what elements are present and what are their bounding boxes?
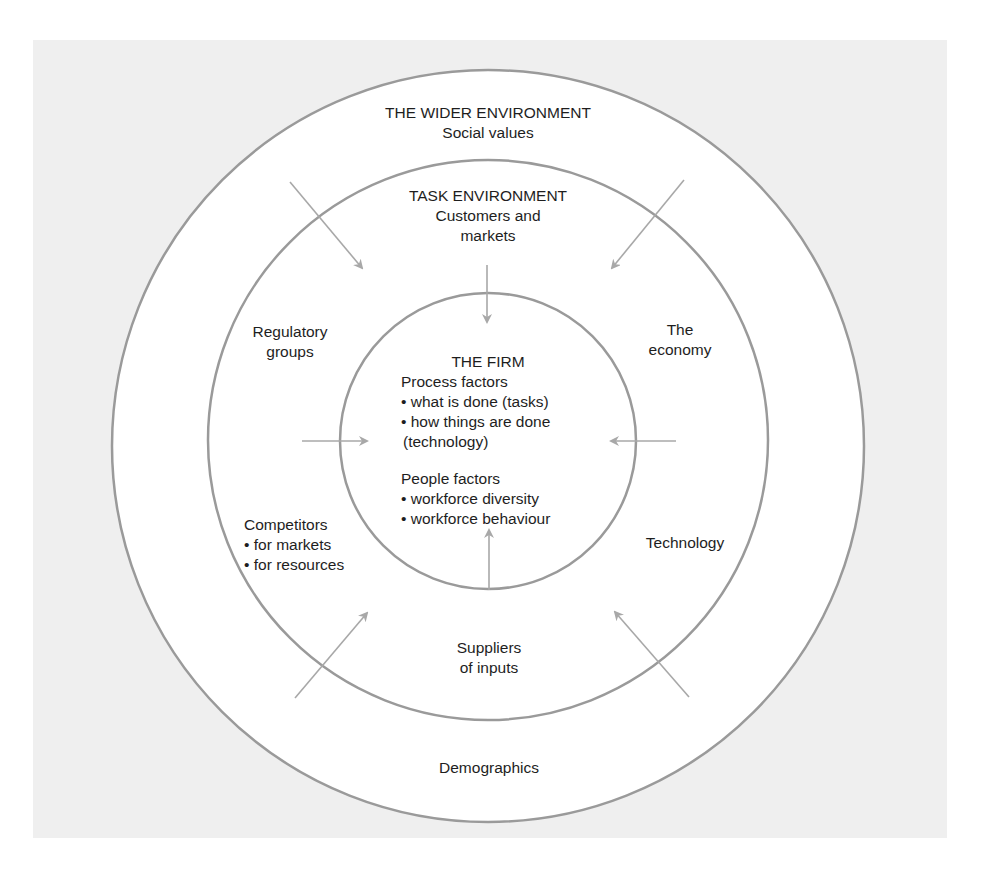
task-environment-subtitle-2: markets (338, 226, 638, 246)
competitors-title: Competitors (244, 515, 344, 535)
process-factors-heading: Process factors (401, 372, 550, 392)
task-environment-title: TASK ENVIRONMENT (338, 186, 638, 206)
firm-people-factors: People factors • workforce diversity • w… (401, 469, 550, 529)
process-factor-2-cont: (technology) (401, 432, 550, 452)
economy-label: The economy (620, 320, 740, 360)
suppliers-line-2: of inputs (419, 658, 559, 678)
competitors-label: Competitors • for markets • for resource… (244, 515, 344, 575)
wider-environment-label: THE WIDER ENVIRONMENT Social values (338, 103, 638, 143)
competitors-bullet-2: • for resources (244, 555, 344, 575)
regulatory-line-1: Regulatory (220, 322, 360, 342)
firm-title: THE FIRM (388, 352, 588, 372)
process-factor-1: • what is done (tasks) (401, 392, 550, 412)
task-environment-label: TASK ENVIRONMENT Customers and markets (338, 186, 638, 246)
wider-environment-title: THE WIDER ENVIRONMENT (338, 103, 638, 123)
people-factor-1: • workforce diversity (401, 489, 550, 509)
task-environment-subtitle-1: Customers and (338, 206, 638, 226)
suppliers-line-1: Suppliers (419, 638, 559, 658)
regulatory-line-2: groups (220, 342, 360, 362)
wider-environment-subtitle: Social values (338, 123, 638, 143)
people-factor-2: • workforce behaviour (401, 509, 550, 529)
economy-line-2: economy (620, 340, 740, 360)
technology-label: Technology (620, 533, 750, 553)
regulatory-groups-label: Regulatory groups (220, 322, 360, 362)
people-factors-heading: People factors (401, 469, 550, 489)
suppliers-label: Suppliers of inputs (419, 638, 559, 678)
process-factor-2: • how things are done (401, 412, 550, 432)
demographics-label: Demographics (409, 758, 569, 778)
economy-line-1: The (620, 320, 740, 340)
competitors-bullet-1: • for markets (244, 535, 344, 555)
firm-process-factors: Process factors • what is done (tasks) •… (401, 372, 550, 452)
